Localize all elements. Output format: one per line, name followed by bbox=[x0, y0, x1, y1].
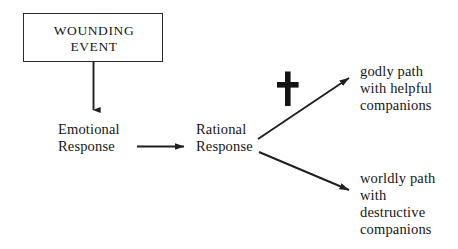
christian-cross-icon bbox=[277, 72, 299, 107]
emotional-response-label: Emotional Response bbox=[58, 121, 120, 155]
edge-rational-to-worldly bbox=[259, 152, 349, 190]
wounding-event-box: WOUNDING EVENT bbox=[23, 13, 163, 62]
worldly-path-label: worldly path with destructive companions bbox=[360, 170, 436, 238]
wounding-event-label: WOUNDING EVENT bbox=[24, 23, 164, 55]
rational-response-label: Rational Response bbox=[196, 121, 253, 155]
edge-rational-to-godly bbox=[258, 78, 349, 139]
godly-path-label: godly path with helpful companions bbox=[360, 63, 432, 114]
diagram-canvas: WOUNDING EVENT Emotional Response Ration… bbox=[0, 0, 458, 249]
